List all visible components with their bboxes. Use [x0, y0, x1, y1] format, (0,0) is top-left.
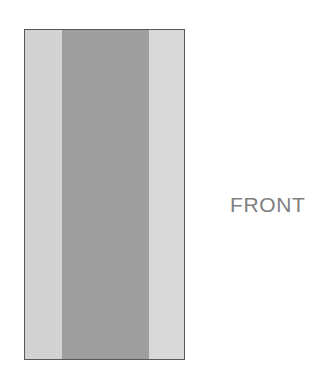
- divider-right: [149, 30, 150, 359]
- door-panel-diagram: [24, 29, 185, 360]
- front-label: FRONT: [230, 194, 305, 215]
- page-canvas: FRONT: [0, 0, 327, 388]
- panel-right-stile: [149, 30, 185, 359]
- divider-left: [62, 30, 63, 359]
- panel-left-stile: [25, 30, 62, 359]
- panel-center: [62, 30, 149, 359]
